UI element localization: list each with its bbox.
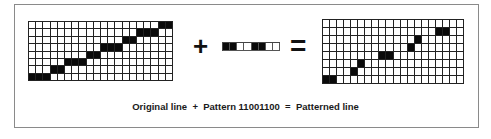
grid-cell — [123, 37, 130, 44]
grid-cell — [159, 29, 166, 36]
grid-cell — [394, 60, 401, 68]
grid-cell — [72, 52, 79, 59]
grid-cell — [436, 60, 443, 68]
grid-cell — [450, 28, 457, 36]
grid-cell — [450, 20, 457, 28]
grid-cell — [43, 22, 50, 29]
grid-cell — [72, 22, 79, 29]
grid-cell — [94, 52, 101, 59]
grid-cell — [408, 68, 415, 76]
grid-cell — [159, 66, 166, 73]
grid-cell — [344, 44, 351, 52]
grid-cell — [372, 76, 379, 84]
grid-cell — [29, 37, 36, 44]
grid-cell — [51, 22, 58, 29]
grid-cell — [429, 44, 436, 52]
grid-cell — [94, 74, 101, 81]
grid-cell — [101, 29, 108, 36]
grid-cell — [394, 76, 401, 84]
grid-cell — [65, 52, 72, 59]
grid-cell — [323, 76, 330, 84]
grid-cell — [344, 52, 351, 60]
grid-cell — [344, 60, 351, 68]
grid-cell — [137, 52, 144, 59]
grid-cell — [365, 28, 372, 36]
grid-cell — [144, 22, 151, 29]
grid-cell — [379, 68, 386, 76]
grid-cell — [130, 59, 137, 66]
grid-cell — [443, 68, 450, 76]
grid-cell — [422, 36, 429, 44]
caption-pattern: Pattern 11001100 — [203, 101, 280, 112]
grid-cell — [379, 52, 386, 60]
grid-cell — [401, 68, 408, 76]
grid-cell — [87, 66, 94, 73]
grid-cell — [159, 52, 166, 59]
grid-cell — [130, 29, 137, 36]
grid-cell — [115, 66, 122, 73]
original-line-grid — [28, 21, 173, 81]
grid-cell — [36, 59, 43, 66]
grid-cell — [344, 36, 351, 44]
grid-cell — [323, 52, 330, 60]
grid-cell — [79, 37, 86, 44]
grid-cell — [443, 52, 450, 60]
grid-cell — [43, 29, 50, 36]
grid-cell — [137, 44, 144, 51]
pattern-cell — [273, 43, 280, 51]
grid-cell — [379, 60, 386, 68]
grid-cell — [58, 44, 65, 51]
grid-cell — [415, 76, 422, 84]
grid-cell — [450, 68, 457, 76]
grid-cell — [166, 22, 173, 29]
grid-cell — [422, 52, 429, 60]
grid-cell — [365, 76, 372, 84]
grid-cell — [29, 74, 36, 81]
grid-cell — [323, 36, 330, 44]
grid-cell — [401, 44, 408, 52]
grid-cell — [379, 44, 386, 52]
grid-cell — [365, 68, 372, 76]
grid-cell — [87, 22, 94, 29]
grid-cell — [115, 59, 122, 66]
grid-cell — [72, 44, 79, 51]
grid-cell — [108, 66, 115, 73]
grid-cell — [415, 44, 422, 52]
grid-cell — [72, 37, 79, 44]
grid-cell — [372, 28, 379, 36]
grid-cell — [436, 36, 443, 44]
grid-cell — [457, 28, 464, 36]
grid-cell — [123, 66, 130, 73]
patterned-line-grid — [322, 19, 464, 84]
grid-cell — [443, 36, 450, 44]
pattern-cell — [252, 43, 259, 51]
grid-cell — [443, 44, 450, 52]
grid-cell — [36, 74, 43, 81]
grid-cell — [29, 59, 36, 66]
grid-cell — [415, 36, 422, 44]
grid-cell — [29, 52, 36, 59]
grid-cell — [457, 68, 464, 76]
grid-cell — [457, 36, 464, 44]
grid-cell — [87, 52, 94, 59]
grid-cell — [123, 52, 130, 59]
grid-cell — [351, 52, 358, 60]
grid-cell — [29, 29, 36, 36]
grid-cell — [43, 44, 50, 51]
grid-cell — [166, 52, 173, 59]
grid-cell — [79, 44, 86, 51]
grid-cell — [151, 74, 158, 81]
grid-cell — [151, 22, 158, 29]
grid-cell — [351, 28, 358, 36]
grid-cell — [115, 52, 122, 59]
grid-cell — [372, 68, 379, 76]
grid-cell — [36, 66, 43, 73]
grid-cell — [137, 74, 144, 81]
grid-cell — [443, 20, 450, 28]
grid-cell — [51, 44, 58, 51]
grid-cell — [108, 59, 115, 66]
grid-cell — [394, 44, 401, 52]
grid-cell — [137, 37, 144, 44]
grid-cell — [108, 37, 115, 44]
grid-cell — [151, 37, 158, 44]
